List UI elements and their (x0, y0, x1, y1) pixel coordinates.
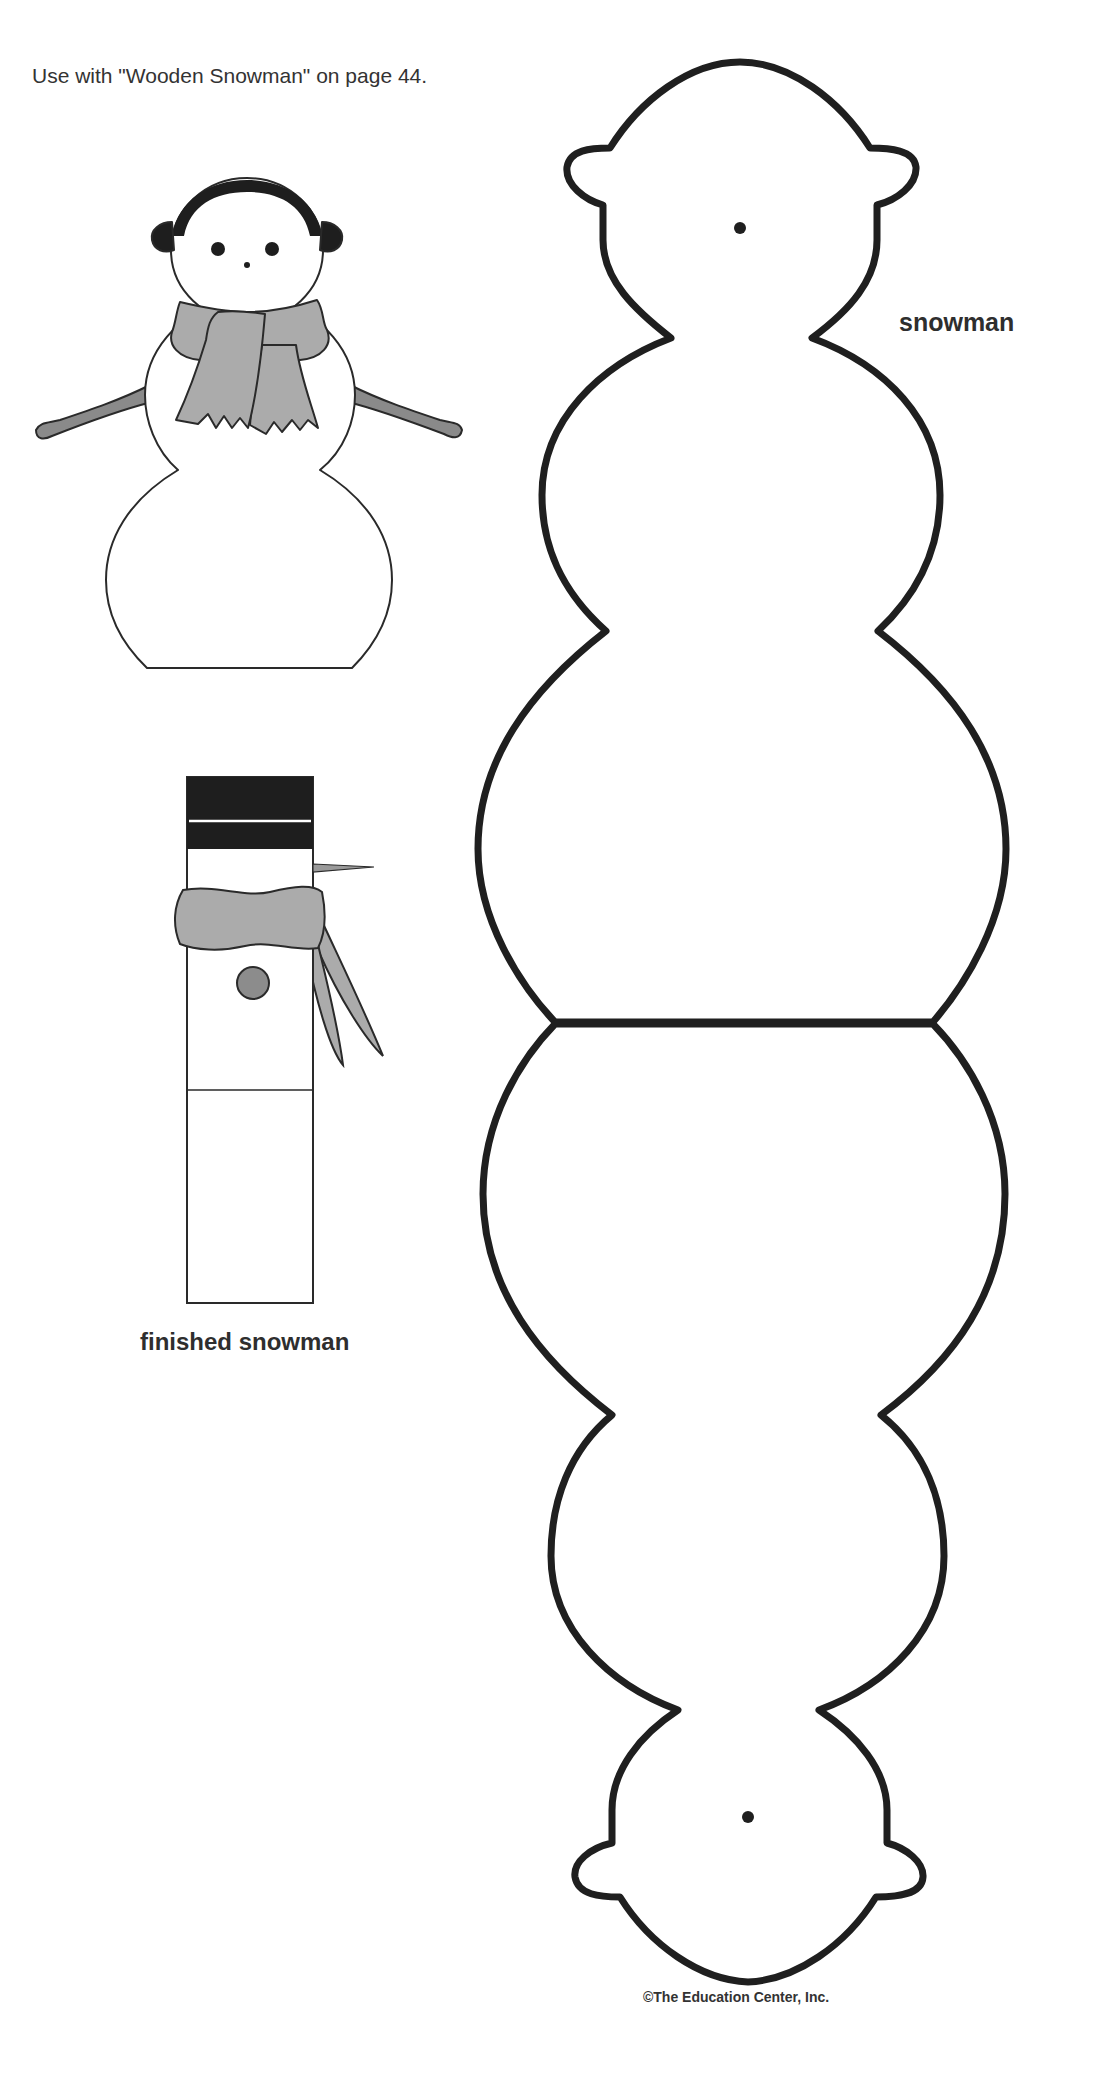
button-icon (237, 967, 269, 999)
snowman-pattern-label: snowman (899, 308, 1014, 337)
nose-dot-icon (244, 262, 250, 268)
earmuff-right-icon (320, 222, 342, 252)
copyright-text: ©The Education Center, Inc. (643, 1989, 829, 2005)
pattern-upper-half-outline (478, 62, 1006, 1022)
pattern-lower-half-outline (483, 1024, 1005, 1982)
left-arm-icon (36, 385, 152, 438)
snowman-pattern-icon (478, 62, 1006, 1982)
top-hat-icon (187, 777, 313, 849)
wood-block-icon (187, 777, 313, 1303)
finished-snowman-icon (175, 777, 383, 1303)
earmuff-left-icon (152, 222, 174, 252)
scarf-band-icon (175, 887, 325, 950)
carrot-nose-icon (313, 864, 374, 872)
example-snowman-icon (36, 178, 462, 668)
left-eye-icon (211, 242, 225, 256)
right-arm-icon (348, 385, 462, 437)
right-eye-icon (265, 242, 279, 256)
pattern-top-hole-icon (734, 222, 746, 234)
finished-snowman-label: finished snowman (140, 1328, 349, 1356)
pattern-bottom-hole-icon (742, 1811, 754, 1823)
